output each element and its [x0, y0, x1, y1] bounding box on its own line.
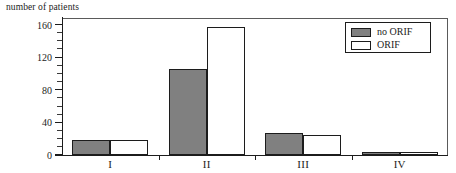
legend-item-no-orif: no ORIF — [351, 26, 430, 38]
bar-no-orif-II — [169, 69, 207, 155]
y-tick-minor — [57, 106, 62, 107]
x-category-label: III — [297, 158, 309, 170]
y-tick-minor — [57, 81, 62, 82]
y-tick-minor — [57, 40, 62, 41]
y-tick-minor — [57, 130, 62, 131]
x-tick — [352, 155, 353, 160]
y-tick-major — [55, 89, 62, 90]
legend-swatch-no-orif — [351, 28, 371, 37]
x-category-label: I — [108, 158, 112, 170]
y-tick-minor — [57, 48, 62, 49]
bar-orif-II — [207, 27, 245, 155]
y-tick-minor — [57, 114, 62, 115]
x-category-label: II — [203, 158, 211, 170]
y-tick-minor — [57, 138, 62, 139]
legend-label-no-orif: no ORIF — [377, 27, 412, 37]
bar-orif-I — [110, 140, 148, 155]
legend-label-orif: ORIF — [377, 40, 400, 50]
bar-orif-IV — [400, 152, 438, 155]
bar-chart-figure: number of patients 04080120160 no ORIF O… — [0, 0, 456, 173]
bar-no-orif-IV — [362, 152, 400, 155]
y-tick-minor — [57, 146, 62, 147]
legend-item-orif: ORIF — [351, 39, 430, 51]
bar-no-orif-I — [72, 140, 110, 155]
legend-swatch-orif — [351, 41, 371, 50]
y-tick-major — [55, 122, 62, 123]
y-tick-minor — [57, 73, 62, 74]
y-tick-major — [55, 24, 62, 25]
y-tick-major — [55, 57, 62, 58]
bar-no-orif-III — [265, 133, 303, 155]
y-tick-minor — [57, 97, 62, 98]
x-tick — [159, 155, 160, 160]
y-tick-minor — [57, 65, 62, 66]
bar-orif-III — [303, 135, 341, 155]
chart-legend: no ORIF ORIF — [345, 22, 431, 53]
y-tick-minor — [57, 32, 62, 33]
x-tick — [255, 155, 256, 160]
x-category-label: IV — [394, 158, 406, 170]
y-tick-major — [55, 154, 62, 155]
